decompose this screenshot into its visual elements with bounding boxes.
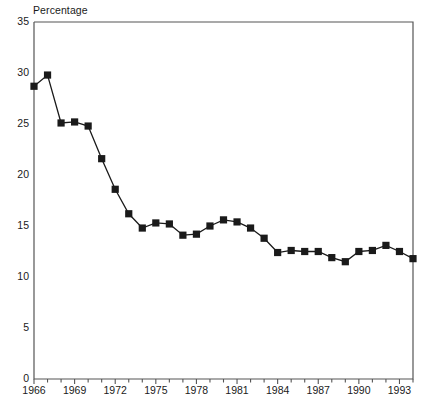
data-point-marker bbox=[166, 220, 173, 227]
series-polyline bbox=[34, 75, 413, 262]
x-axis-tick-label: 1978 bbox=[185, 384, 208, 396]
data-series-line bbox=[34, 75, 413, 262]
x-axis-tick-label: 1993 bbox=[388, 384, 411, 396]
plot-area bbox=[0, 0, 424, 407]
data-point-marker bbox=[369, 247, 376, 254]
data-point-marker bbox=[328, 254, 335, 261]
data-point-marker bbox=[85, 122, 92, 129]
data-point-marker bbox=[206, 222, 213, 229]
data-point-marker bbox=[247, 224, 254, 231]
data-point-marker bbox=[179, 232, 186, 239]
data-point-marker bbox=[139, 224, 146, 231]
data-point-marker bbox=[355, 248, 362, 255]
x-axis-tick-label: 1972 bbox=[104, 384, 127, 396]
chart-container: Percentage 35302520151050 19661969197219… bbox=[0, 0, 424, 407]
x-axis-tick-label: 1990 bbox=[347, 384, 370, 396]
x-axis-tick-label: 1969 bbox=[63, 384, 86, 396]
x-axis-tick-label: 1975 bbox=[144, 384, 167, 396]
data-series-markers bbox=[30, 71, 416, 265]
data-point-marker bbox=[193, 231, 200, 238]
data-point-marker bbox=[274, 249, 281, 256]
data-point-marker bbox=[382, 242, 389, 249]
data-point-marker bbox=[220, 216, 227, 223]
data-point-marker bbox=[342, 258, 349, 265]
data-point-marker bbox=[233, 218, 240, 225]
data-point-marker bbox=[396, 248, 403, 255]
x-axis-tick-label: 1987 bbox=[307, 384, 330, 396]
data-point-marker bbox=[125, 210, 132, 217]
data-point-marker bbox=[112, 186, 119, 193]
data-point-marker bbox=[44, 71, 51, 78]
data-point-marker bbox=[152, 219, 159, 226]
data-point-marker bbox=[261, 235, 268, 242]
data-point-marker bbox=[30, 83, 37, 90]
data-point-marker bbox=[288, 247, 295, 254]
axis-frame bbox=[34, 22, 413, 379]
data-point-marker bbox=[71, 118, 78, 125]
data-point-marker bbox=[98, 155, 105, 162]
data-point-marker bbox=[301, 248, 308, 255]
data-point-marker bbox=[57, 119, 64, 126]
data-point-marker bbox=[315, 248, 322, 255]
x-axis-tick-label: 1981 bbox=[225, 384, 248, 396]
data-point-marker bbox=[409, 255, 416, 262]
x-axis-tick-label: 1966 bbox=[22, 384, 45, 396]
x-axis-tick-label: 1984 bbox=[266, 384, 289, 396]
